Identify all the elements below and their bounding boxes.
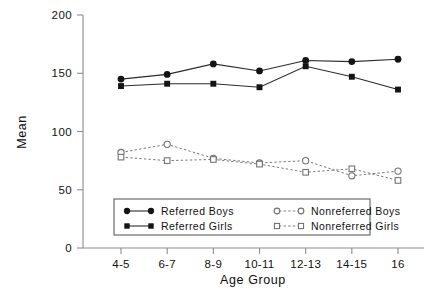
x-tick-label: 10-11 (244, 258, 274, 270)
y-tick-label: 150 (52, 67, 72, 79)
figure-caption (0, 296, 437, 305)
x-tick-label: 8-9 (205, 258, 223, 270)
chart-figure: Mean 050100150200 4-56-78-910-1112-1314-… (0, 0, 437, 305)
series-markers-2 (118, 141, 401, 179)
x-axis-tick-labels: 4-56-78-910-1112-1314-1516 (112, 258, 404, 270)
y-axis-tick-labels: 050100150200 (52, 9, 72, 254)
y-tick-label: 200 (52, 9, 72, 21)
x-tick-label: 6-7 (158, 258, 176, 270)
legend-label: Nonreferred Girls (311, 220, 399, 232)
x-axis-ticks (121, 248, 398, 254)
x-tick-label: 4-5 (112, 258, 130, 270)
x-axis-title: Age Group (220, 273, 286, 287)
y-axis-ticks (77, 15, 83, 248)
chart-legend: Referred BoysNonreferred BoysReferred Gi… (114, 199, 401, 235)
legend-label: Referred Boys (161, 205, 234, 217)
y-axis-title: Mean (15, 115, 29, 149)
x-tick-label: 16 (391, 258, 404, 270)
y-tick-label: 100 (52, 126, 72, 138)
series-markers-3 (118, 154, 401, 183)
x-tick-label: 12-13 (290, 258, 321, 270)
line-chart: Mean 050100150200 4-56-78-910-1112-1314-… (0, 0, 437, 305)
legend-label: Nonreferred Boys (311, 205, 401, 217)
y-tick-label: 50 (58, 184, 72, 196)
y-tick-label: 0 (65, 242, 72, 254)
legend-label: Referred Girls (161, 220, 233, 232)
x-tick-label: 14-15 (336, 258, 367, 270)
